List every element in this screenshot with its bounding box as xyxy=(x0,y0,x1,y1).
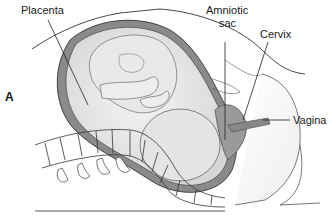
fetal-head xyxy=(140,109,220,181)
label-amniotic-sac-line2: sac xyxy=(219,18,236,29)
label-amniotic-sac-line1: Amniotic xyxy=(206,5,248,16)
anatomical-illustration: Placenta Amniotic sac Cervix Vagina A xyxy=(0,0,333,217)
label-placenta: Placenta xyxy=(21,5,64,16)
label-cervix: Cervix xyxy=(260,29,291,40)
bladder-outline xyxy=(210,60,262,94)
label-vagina: Vagina xyxy=(293,115,326,126)
panel-letter: A xyxy=(5,90,14,104)
perineum-outline xyxy=(235,74,300,205)
